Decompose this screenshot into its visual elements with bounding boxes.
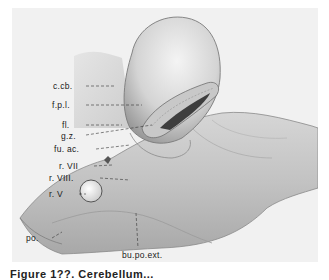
label-f-p-l: f.p.l. bbox=[52, 101, 70, 110]
anatomical-drawing bbox=[12, 8, 318, 262]
label-r-VIII: r. VIII. bbox=[49, 174, 74, 183]
label-c-cb: c.cb. bbox=[53, 82, 72, 91]
label-r-V: r. V bbox=[49, 190, 63, 199]
label-g-z: g.z. bbox=[61, 132, 76, 141]
label-bu-po-ext: bu.po.ext. bbox=[122, 251, 162, 260]
figure-caption: Figure 1??. Cerebellum... bbox=[10, 268, 154, 280]
label-fl: fl. bbox=[62, 121, 70, 130]
label-fu-ac: fu. ac. bbox=[54, 145, 79, 154]
label-r-VII: r. VII bbox=[59, 162, 78, 171]
label-po: po. bbox=[26, 234, 39, 243]
figure-illustration: c.cb. f.p.l. fl. g.z. fu. ac. r. VII r. … bbox=[12, 8, 318, 262]
